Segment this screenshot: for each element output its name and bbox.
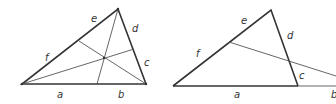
label-b: b (118, 89, 124, 100)
label-b: b (331, 89, 336, 100)
label-a: a (234, 89, 240, 100)
label-f: f (45, 52, 50, 63)
label-e: e (91, 13, 97, 24)
vertex-dot (145, 83, 147, 85)
label-a: a (57, 89, 63, 100)
cevian-from-right (79, 41, 146, 84)
vertex-dot (21, 83, 23, 85)
right-triangle-sides (173, 10, 298, 86)
ceva-figure: a b c d e f (21, 8, 150, 100)
label-f: f (196, 48, 201, 59)
cevian-from-top (97, 9, 118, 84)
ceva-menelaus-diagram: a b c d e f a b c d e f (0, 0, 336, 104)
label-e: e (241, 15, 247, 26)
label-d: d (132, 23, 139, 34)
left-triangle (22, 9, 146, 84)
vertex-dot (117, 8, 119, 10)
label-c: c (144, 57, 150, 68)
concurrency-point (103, 57, 105, 59)
label-c: c (299, 70, 305, 81)
menelaus-figure: a b c d e f (173, 10, 336, 100)
transversal-line (229, 42, 336, 76)
cevian-from-left (22, 49, 134, 84)
label-d: d (287, 30, 294, 41)
